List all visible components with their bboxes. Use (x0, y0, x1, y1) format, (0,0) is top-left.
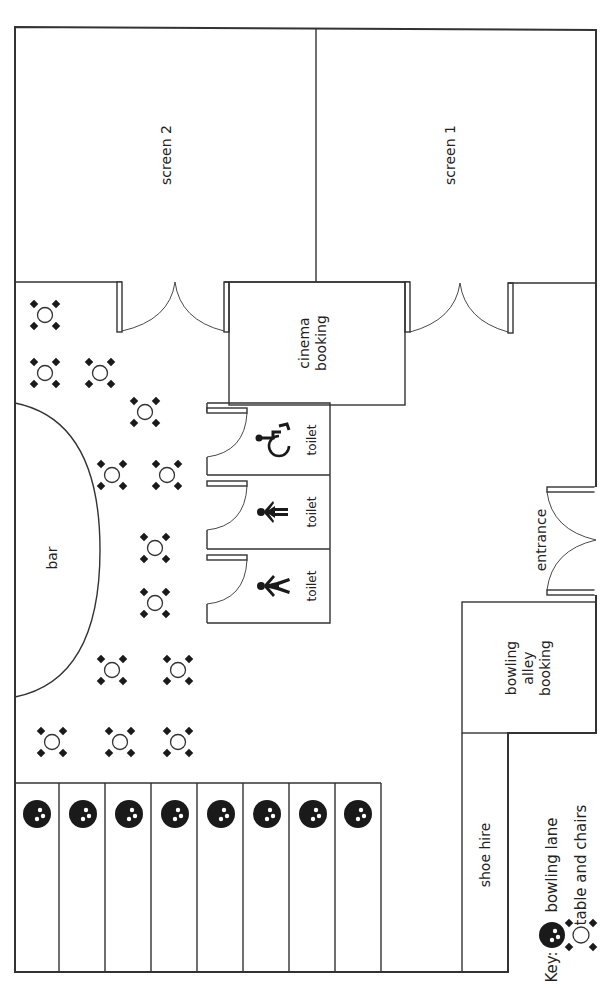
label-bar: bar (44, 546, 61, 569)
table-and-chairs-icon (140, 533, 170, 563)
floor-plan (0, 0, 613, 988)
entrance-doors (547, 492, 596, 590)
label-screen-1: screen 1 (442, 125, 459, 185)
label-cinema-booking: cinema booking (296, 315, 330, 371)
table-and-chairs-icon (130, 397, 160, 427)
key-bowling-ball-icon (539, 922, 565, 948)
table-and-chairs-icon (152, 460, 182, 490)
female-icon (257, 501, 288, 523)
label-toilet-female: toilet (304, 497, 321, 528)
table-and-chairs-icon (140, 588, 170, 618)
table-and-chairs-icon (105, 727, 135, 757)
door-screen2 (122, 282, 224, 331)
label-bowling-alley-booking: bowling alley booking (503, 640, 554, 696)
table-and-chairs-icon (30, 358, 60, 388)
door-screen1 (410, 283, 508, 332)
label-screen-2: screen 2 (158, 125, 175, 185)
table-and-chairs-icon (163, 655, 193, 685)
label-entrance: entrance (533, 509, 550, 572)
table-and-chairs-icon (97, 655, 127, 685)
table-and-chairs-icon (97, 460, 127, 490)
label-shoe-hire: shoe hire (477, 823, 494, 888)
table-and-chairs-icon (30, 300, 60, 330)
label-toilet-accessible: toilet (304, 425, 321, 456)
tables-and-chairs (30, 300, 193, 757)
label-toilet-male: toilet (304, 571, 321, 602)
key-title: Key: (544, 951, 561, 982)
table-and-chairs-icon (163, 727, 193, 757)
table-and-chairs-icon (85, 358, 115, 388)
table-and-chairs-icon (37, 727, 67, 757)
key-label-table-and-chairs: table and chairs (573, 805, 590, 926)
male-icon (257, 575, 290, 597)
wheelchair-icon (256, 424, 290, 456)
key-label-bowling-lane: bowling lane (544, 817, 561, 912)
